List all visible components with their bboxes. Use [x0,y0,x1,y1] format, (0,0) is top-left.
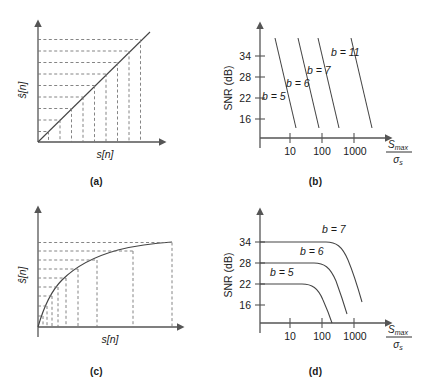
y-tick-label-22: 22 [239,92,251,104]
xlabel-denominator-sub: s [399,159,403,166]
panel-b-xlabel: Smax σs [386,139,412,166]
quantization-snr-figure: s[n] ŝ[n] (a) 34 28 22 [0,0,435,379]
curve-label-b7: b = 7 [307,64,332,76]
panel-c: s[n] ŝ[n] (c) [0,190,217,379]
panel-c-ylabel: ŝ[n] [16,265,28,283]
y-tick-label-16: 16 [239,299,251,311]
curve-label-b6: b = 6 [300,245,324,257]
y-tick-label-16: 16 [239,113,251,125]
x-tick-label-100: 100 [313,330,331,342]
panel-d-ylabel: SNR (dB) [222,253,234,298]
curve-label-b6: b = 6 [286,77,310,89]
x-tick-label-1000: 1000 [343,330,367,342]
x-tick-label-100: 100 [313,145,331,157]
svg-text:σs: σs [393,154,403,166]
x-tick-label-1000: 1000 [343,145,367,157]
panel-b-ylabel: SNR (dB) [222,66,234,111]
xlabel-numerator-sub: max [395,329,409,336]
x-tick-label-10: 10 [284,145,296,157]
panel-c-plot: s[n] ŝ[n] [0,190,217,379]
xlabel-denominator-sub: s [399,344,403,351]
curve-b5 [260,284,332,323]
svg-text:Smax: Smax [388,139,408,151]
panel-a-caption: (a) [0,176,217,187]
panel-d-plot: 34 28 22 16 10 100 1000 b = 7 b = 6 b = [218,190,435,379]
panel-c-xlabel: s[n] [102,333,120,345]
y-tick-label-22: 22 [239,278,251,290]
y-tick-label-28: 28 [239,71,251,83]
panel-d-xlabel: Smax σs [386,324,412,351]
panel-b-caption: (b) [218,176,435,187]
xlabel-numerator-sub: max [395,144,409,151]
curve-label-b5: b = 5 [262,90,286,102]
panel-a-xlabel: s[n] [97,148,115,160]
y-tick-label-34: 34 [239,236,251,248]
curve-label-b7: b = 7 [322,223,347,235]
curve-label-b5: b = 5 [270,266,294,278]
svg-text:Smax: Smax [388,324,408,336]
panel-a-plot: s[n] ŝ[n] [0,0,217,189]
panel-a-ylabel: ŝ[n] [16,80,28,98]
x-tick-label-10: 10 [284,330,296,342]
panel-d: 34 28 22 16 10 100 1000 b = 7 b = 6 b = [218,190,435,379]
panel-d-caption: (d) [218,366,435,377]
panel-a: s[n] ŝ[n] (a) [0,0,217,189]
curve-label-b11: b = 11 [331,46,360,58]
y-tick-label-34: 34 [239,50,251,62]
y-tick-label-28: 28 [239,257,251,269]
panel-c-caption: (c) [0,366,217,377]
panel-b-plot: 34 28 22 16 10 100 1000 b = 5 b = 6 [218,0,435,189]
panel-b: 34 28 22 16 10 100 1000 b = 5 b = 6 [218,0,435,189]
svg-text:σs: σs [393,339,403,351]
identity-line [38,32,150,142]
